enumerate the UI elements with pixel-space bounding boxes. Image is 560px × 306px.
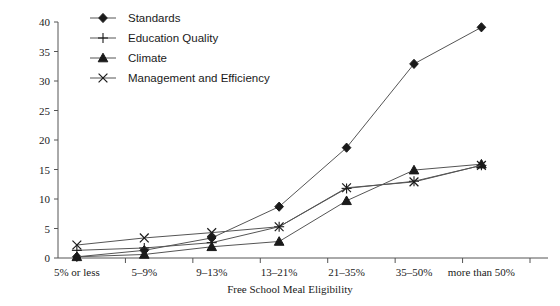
x-tick-label: 35–50%	[396, 266, 433, 278]
triangle-data-point	[342, 196, 352, 205]
x-axis-tick-labels: 5% or less5–9%9–13%13–21%21–35%35–50%mor…	[54, 266, 515, 278]
legend-label: Standards	[128, 12, 181, 24]
legend-item-climate[interactable]: Climate	[90, 52, 167, 64]
y-tick-label: 10	[39, 193, 51, 205]
plus-data-point	[98, 33, 108, 43]
chart-legend: StandardsEducation QualityClimateManagem…	[90, 12, 270, 84]
diamond-data-point	[477, 23, 486, 32]
y-tick-label: 35	[39, 46, 51, 58]
legend-label: Education Quality	[128, 32, 218, 44]
y-axis-tick-labels: 0510152025303540	[39, 16, 51, 264]
x-tick-label: 5% or less	[54, 266, 100, 278]
triangle-data-point	[274, 237, 284, 246]
legend-item-standards[interactable]: Standards	[90, 12, 181, 24]
y-tick-label: 20	[39, 134, 51, 146]
x-tick-label: 21–35%	[328, 266, 365, 278]
legend-label: Management and Efficiency	[128, 72, 270, 84]
x-axis-title: Free School Meal Eligibility	[227, 283, 353, 295]
x-tick-label: 5–9%	[131, 266, 157, 278]
diamond-data-point	[99, 13, 108, 22]
y-tick-label: 0	[45, 252, 51, 264]
x-tick-label: more than 50%	[448, 266, 515, 278]
legend-item-management-and-efficiency[interactable]: Management and Efficiency	[90, 72, 270, 84]
y-tick-label: 15	[39, 164, 51, 176]
x-tick-label: 13–21%	[261, 266, 298, 278]
chart-canvas: StandardsEducation QualityClimateManagem…	[0, 0, 560, 306]
y-tick-label: 30	[39, 75, 51, 87]
y-tick-label: 25	[39, 105, 51, 117]
y-tick-label: 5	[45, 223, 51, 235]
y-tick-label: 40	[39, 16, 51, 28]
legend-label: Climate	[128, 52, 167, 64]
legend-item-education-quality[interactable]: Education Quality	[90, 32, 218, 44]
x-tick-label: 9–13%	[196, 266, 227, 278]
line-chart: StandardsEducation QualityClimateManagem…	[0, 0, 560, 306]
